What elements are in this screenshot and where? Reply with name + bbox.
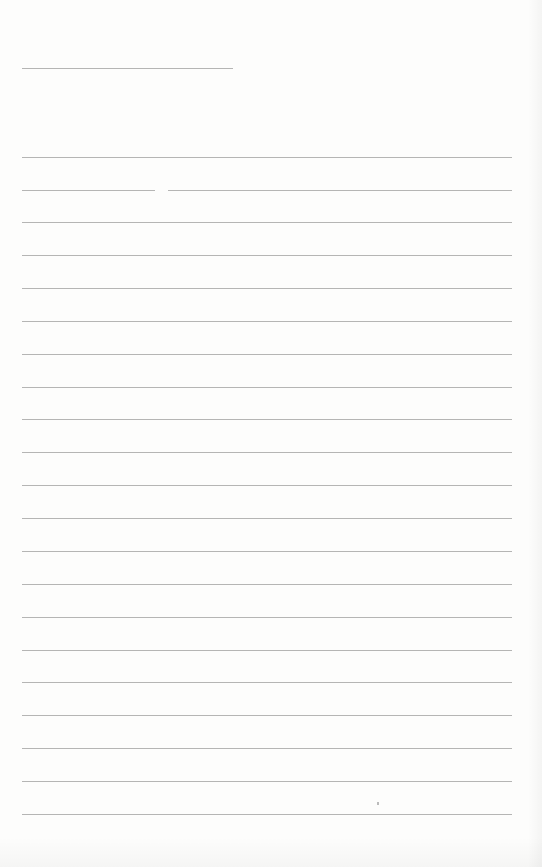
paper-shading xyxy=(0,0,542,867)
ruled-line-15 xyxy=(22,617,512,618)
ruled-line-4 xyxy=(22,255,512,256)
ruled-line-8 xyxy=(22,387,512,388)
ruled-line-12 xyxy=(22,518,512,519)
ruled-line-19 xyxy=(22,748,512,749)
ruled-line-11 xyxy=(22,485,512,486)
stray-mark xyxy=(377,802,379,805)
ruled-line-13 xyxy=(22,551,512,552)
ruled-line-16 xyxy=(22,650,512,651)
ruled-line-2-seg-2 xyxy=(168,190,512,191)
ruled-line-2-seg-1 xyxy=(22,190,155,191)
ruled-line-9 xyxy=(22,419,512,420)
ruled-line-10 xyxy=(22,452,512,453)
ruled-line-7 xyxy=(22,354,512,355)
ruled-line-3 xyxy=(22,222,512,223)
ruled-line-5 xyxy=(22,288,512,289)
ruled-line-21 xyxy=(22,814,512,815)
ruled-line-1 xyxy=(22,157,512,158)
ruled-line-18 xyxy=(22,715,512,716)
ruled-line-6 xyxy=(22,321,512,322)
ruled-line-17 xyxy=(22,682,512,683)
header-line xyxy=(22,68,233,69)
ruled-line-14 xyxy=(22,584,512,585)
ruled-line-20 xyxy=(22,781,512,782)
